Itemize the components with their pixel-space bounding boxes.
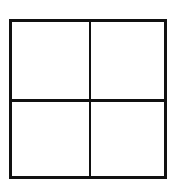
grid-cell-top-left: [12, 22, 89, 99]
grid-cell-top-right: [91, 22, 164, 99]
grid-cell-bottom-right: [91, 102, 164, 176]
grid-cell-bottom-left: [12, 102, 89, 176]
horizontal-divider: [12, 99, 164, 102]
two-by-two-grid: [9, 19, 167, 179]
